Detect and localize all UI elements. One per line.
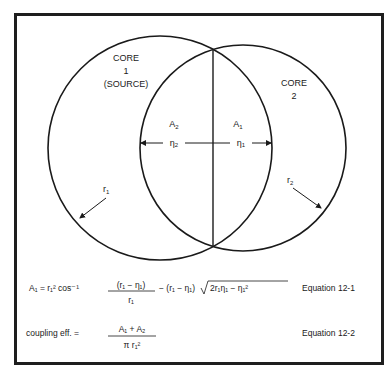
radius-r2-arrow	[293, 188, 321, 208]
eq1-frac-den: r₁	[128, 295, 134, 305]
core-1-circle	[48, 36, 272, 260]
eq1-label: Equation 12-1	[302, 283, 355, 293]
eq1-rest: − (r₁ − η₁)	[159, 283, 195, 293]
eq2-label: Equation 12-2	[302, 328, 355, 338]
core-1-number: 1	[123, 66, 128, 76]
eq1-sqrt-body: 2r₁η₁ − η₁²	[210, 283, 248, 293]
core-1-title: CORE	[113, 53, 139, 63]
eq2-frac-den: π r₁²	[124, 340, 141, 350]
eq1-lhs: A₁ = r₁² cos⁻¹	[29, 283, 79, 293]
eta-2-label: η2	[170, 138, 179, 148]
area-a2-label: A2	[169, 119, 179, 130]
eq1-frac-num: (r₁ − η₁)	[117, 280, 146, 290]
equation-12-2: coupling eff. = A₁ + A₂ π r₁² Equation 1…	[26, 324, 355, 350]
radius-r1-arrow	[80, 198, 106, 218]
equation-12-1: A₁ = r₁² cos⁻¹ (r₁ − η₁) r₁ − (r₁ − η₁) …	[29, 280, 355, 305]
radius-r1-label: r1	[103, 184, 110, 195]
eq2-frac-num: A₁ + A₂	[119, 324, 146, 334]
overlap-diagram: CORE 1 (SOURCE) CORE 2 A2 A1 η2 η1 r1 r2…	[0, 0, 391, 373]
core-2-number: 2	[291, 91, 296, 101]
core-1-note: (SOURCE)	[104, 79, 149, 89]
eq2-lhs: coupling eff. =	[26, 328, 79, 338]
eta-1-label: η1	[237, 138, 246, 148]
area-a1-label: A1	[233, 119, 243, 130]
core-2-title: CORE	[281, 78, 307, 88]
radius-r2-label: r2	[287, 175, 294, 186]
core-2-circle	[140, 45, 346, 251]
